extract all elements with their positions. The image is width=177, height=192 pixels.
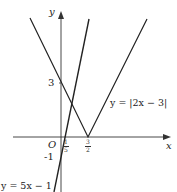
origin-label: O xyxy=(48,140,56,150)
linear-curve-label: y = 5x − 1 xyxy=(1,181,52,191)
linear-curve xyxy=(54,19,89,192)
y-axis-arrow-icon xyxy=(58,11,64,19)
y-tick-label-minus-1: -1 xyxy=(44,152,54,162)
abs-curve-label: y = |2x − 3| xyxy=(110,98,167,108)
x-tick-label-three-halves: 3 2 xyxy=(85,139,91,153)
frac-den: 2 xyxy=(86,146,90,153)
x-axis-label: x xyxy=(166,141,172,151)
x-tick-label-one-fifth: 1 5 xyxy=(63,139,69,153)
graph-canvas xyxy=(0,0,177,192)
frac-den: 5 xyxy=(64,146,68,153)
y-axis-label: y xyxy=(49,7,55,17)
frac-num: 1 xyxy=(64,138,68,145)
frac-num: 3 xyxy=(86,138,90,145)
y-tick-label-3: 3 xyxy=(48,78,54,88)
